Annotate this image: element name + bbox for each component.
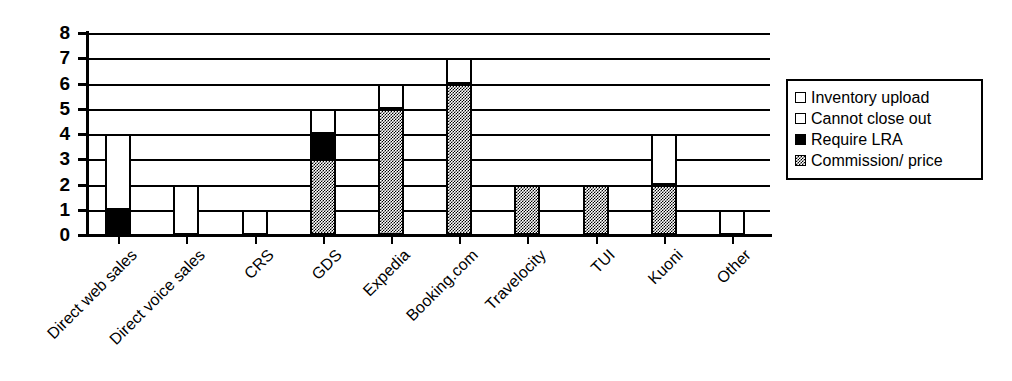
- bar-stack[interactable]: [719, 33, 745, 235]
- x-axis-tick-label: Travelocity: [482, 246, 550, 314]
- bar-segment[interactable]: [514, 185, 540, 236]
- bar-segment[interactable]: [378, 109, 404, 235]
- x-axis-tick-mark: [664, 235, 666, 244]
- x-axis-tick-mark: [596, 235, 598, 244]
- bar-stack[interactable]: [105, 33, 131, 235]
- x-axis-tick-mark: [732, 235, 734, 244]
- y-axis-tick-label: 4: [44, 124, 70, 143]
- legend-item[interactable]: Commission/ price: [795, 150, 974, 171]
- chart-container: 012345678 Direct web salesDirect voice s…: [0, 0, 1012, 381]
- y-axis-tick-label: 2: [44, 175, 70, 194]
- legend-swatch-icon: [795, 155, 806, 166]
- y-axis-tick-label: 3: [44, 149, 70, 168]
- bar-stack[interactable]: [514, 33, 540, 235]
- bar-segment[interactable]: [242, 210, 268, 235]
- bar-stack[interactable]: [446, 33, 472, 235]
- bar-stack[interactable]: [378, 33, 404, 235]
- x-axis-tick-label: Expedia: [360, 246, 414, 300]
- chart-legend: Inventory uploadCannot close outRequire …: [786, 79, 983, 180]
- bar-stack[interactable]: [310, 33, 336, 235]
- y-axis-tick-label: 6: [44, 74, 70, 93]
- legend-item[interactable]: Cannot close out: [795, 108, 974, 129]
- legend-item-label: Inventory upload: [811, 90, 929, 106]
- y-axis-tick-label: 0: [44, 225, 70, 244]
- bar-stack[interactable]: [651, 33, 677, 235]
- bar-segment[interactable]: [651, 185, 677, 236]
- legend-item-label: Commission/ price: [811, 153, 943, 169]
- bar-segment[interactable]: [651, 134, 677, 185]
- bar-segment[interactable]: [310, 134, 336, 159]
- legend-swatch-icon: [795, 113, 806, 124]
- x-axis-line: [86, 234, 772, 237]
- bar-segment[interactable]: [719, 210, 745, 235]
- x-axis-tick-mark: [255, 235, 257, 244]
- y-axis-line: [86, 31, 89, 237]
- plot-area: [88, 33, 770, 235]
- x-axis-tick-mark: [391, 235, 393, 244]
- x-axis-tick-mark: [323, 235, 325, 244]
- bar-stack[interactable]: [583, 33, 609, 235]
- x-axis-tick-label: GDS: [308, 246, 345, 283]
- bar-stack[interactable]: [173, 33, 199, 235]
- y-axis-tick-label: 5: [44, 99, 70, 118]
- bar-segment[interactable]: [310, 109, 336, 134]
- legend-item-label: Require LRA: [811, 132, 903, 148]
- legend-item[interactable]: Inventory upload: [795, 87, 974, 108]
- x-axis-tick-label: CRS: [240, 246, 277, 283]
- bar-segment[interactable]: [173, 185, 199, 236]
- legend-item[interactable]: Require LRA: [795, 129, 974, 150]
- x-axis-tick-label: Other: [713, 246, 754, 287]
- bar-segment[interactable]: [105, 134, 131, 210]
- bar-stack[interactable]: [242, 33, 268, 235]
- bar-segment[interactable]: [310, 159, 336, 235]
- x-axis-tick-label: Booking.com: [403, 246, 482, 325]
- x-axis-tick-mark: [527, 235, 529, 244]
- x-axis-tick-label: Kuoni: [644, 246, 686, 288]
- y-axis-tick-label: 8: [44, 23, 70, 42]
- bar-segment[interactable]: [378, 84, 404, 109]
- legend-item-label: Cannot close out: [811, 111, 931, 127]
- x-axis-tick-mark: [186, 235, 188, 244]
- x-axis-tick-label: TUI: [587, 246, 618, 277]
- bar-segment[interactable]: [105, 210, 131, 235]
- x-axis-tick-mark: [459, 235, 461, 244]
- y-axis-tick-label: 1: [44, 200, 70, 219]
- bar-segment[interactable]: [583, 185, 609, 236]
- legend-swatch-icon: [795, 134, 806, 145]
- bar-segment[interactable]: [446, 58, 472, 83]
- y-axis-tick-label: 7: [44, 48, 70, 67]
- x-axis-tick-mark: [118, 235, 120, 244]
- legend-swatch-icon: [795, 92, 806, 103]
- bar-segment[interactable]: [446, 84, 472, 236]
